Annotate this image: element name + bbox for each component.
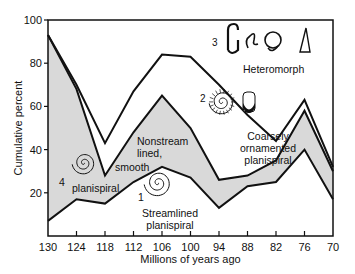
annotation-number-3: 3 [212, 37, 218, 49]
ammonite-streamlined-icon [144, 173, 169, 195]
heteromorph-icons [228, 24, 310, 53]
label-smooth: smooth [115, 161, 149, 173]
x-tick-label: 100 [181, 241, 199, 253]
annotation-number-2: 2 [200, 93, 206, 105]
annotation-number-4: 4 [59, 176, 65, 188]
label-streamlined: Streamlined planispiral [130, 207, 210, 231]
annotation-number-1: 1 [138, 191, 144, 203]
y-axis-title-text: Cumulative percent [12, 81, 24, 176]
label-heteromorph: Heteromorph [243, 63, 304, 75]
label-line: lined, [137, 147, 188, 159]
label-line: ornamented [228, 142, 308, 154]
x-tick-label: 130 [39, 241, 57, 253]
x-tick-label: 106 [153, 241, 171, 253]
x-tick-label: 82 [270, 241, 282, 253]
label-line: Streamlined [130, 207, 210, 219]
x-tick-label: 94 [213, 241, 225, 253]
ammonite-ornamented-icon [209, 89, 235, 115]
y-tick-label: 60 [30, 100, 42, 112]
label-coarsely-ornamented: Coarsely ornamented planispiral [228, 130, 308, 166]
x-tick-label: 88 [241, 241, 253, 253]
x-axis-title: Millions of years ago [140, 253, 240, 265]
x-tick-label: 76 [298, 241, 310, 253]
y-tick-label: 40 [30, 144, 42, 156]
label-line: Coarsely [228, 130, 308, 142]
x-tick-label: 70 [327, 241, 339, 253]
ammonite-cross-section-icon [243, 92, 255, 113]
label-planispiral-4: planispiral [72, 182, 119, 194]
label-line: planispiral [130, 219, 210, 231]
y-tick-label: 80 [30, 57, 42, 69]
x-tick-label: 112 [125, 241, 143, 253]
x-tick-label: 124 [67, 241, 85, 253]
y-tick-label: 20 [30, 187, 42, 199]
x-tick-label: 118 [96, 241, 114, 253]
y-tick-label: 100 [24, 14, 42, 26]
label-nonstreamlined: Nonstream lined, [137, 135, 188, 159]
label-line: planispiral [228, 154, 308, 166]
label-line: Nonstream [137, 135, 188, 147]
